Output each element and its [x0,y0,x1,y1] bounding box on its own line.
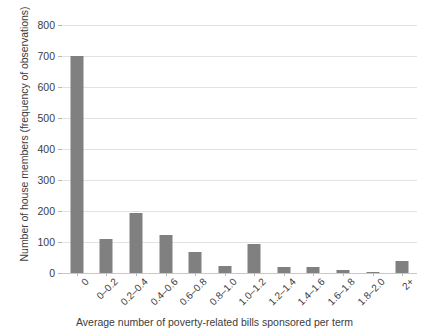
bar-slot [180,25,210,273]
bar-slot [151,25,181,273]
x-tick-mark [195,273,196,276]
x-tick-label: 1.2–1.4 [266,276,297,307]
bar-slot [240,25,270,273]
bar-slot [358,25,388,273]
bar-slot [269,25,299,273]
bar-slot [62,25,92,273]
bar[interactable] [189,252,202,273]
x-tick-label: 0.4–0.6 [148,276,179,307]
x-tick-label: 1.6–1.8 [325,276,356,307]
bar-slot [299,25,329,273]
x-tick-mark [136,273,137,276]
y-axis-title: Number of house members (frequency of ob… [18,2,30,266]
bar[interactable] [396,261,409,273]
x-tick-label: 1.8–2.0 [355,276,386,307]
bar[interactable] [248,244,261,273]
x-tick-mark [313,273,314,276]
x-axis-ticks: 00–0.20.2–0.40.4–0.60.6–0.80.8–1.01.0–1.… [62,276,417,316]
x-tick-mark [225,273,226,276]
x-tick-mark [77,273,78,276]
bar-chart: Number of house members (frequency of ob… [0,0,429,335]
x-tick-mark [254,273,255,276]
x-tick-label: 0.6–0.8 [178,276,209,307]
x-tick-label: 1.4–1.6 [296,276,327,307]
bar-slot [210,25,240,273]
bar[interactable] [100,239,113,273]
y-tick-label: 500 [37,112,55,124]
bar-slot [328,25,358,273]
x-tick-mark [284,273,285,276]
x-axis-title: Average number of poverty-related bills … [0,316,429,328]
y-tick-label: 400 [37,143,55,155]
x-tick-label: 1.0–1.2 [237,276,268,307]
x-tick-mark [343,273,344,276]
y-tick-label: 700 [37,50,55,62]
plot-area: 0100200300400500600700800 [62,25,417,273]
x-tick-mark [373,273,374,276]
bar-slot [92,25,122,273]
y-tick-label: 100 [37,236,55,248]
y-tick-label: 300 [37,174,55,186]
y-tick-mark [58,273,62,274]
x-tick-label: 2+ [400,276,416,292]
bar-series [62,25,417,273]
x-tick-label: 0.8–1.0 [207,276,238,307]
bar[interactable] [129,213,142,273]
y-tick-label: 200 [37,205,55,217]
y-tick-label: 0 [49,267,55,279]
gridline [62,273,417,274]
x-tick-label: 0 [79,276,91,288]
bar-slot [387,25,417,273]
x-tick-mark [402,273,403,276]
y-tick-label: 800 [37,19,55,31]
bar[interactable] [70,56,83,273]
bar[interactable] [218,266,231,273]
bar[interactable] [159,235,172,273]
y-tick-label: 600 [37,81,55,93]
x-tick-mark [166,273,167,276]
x-tick-mark [106,273,107,276]
x-tick-label: 0.2–0.4 [118,276,149,307]
x-tick-label: 0–0.2 [95,276,120,301]
bar-slot [121,25,151,273]
